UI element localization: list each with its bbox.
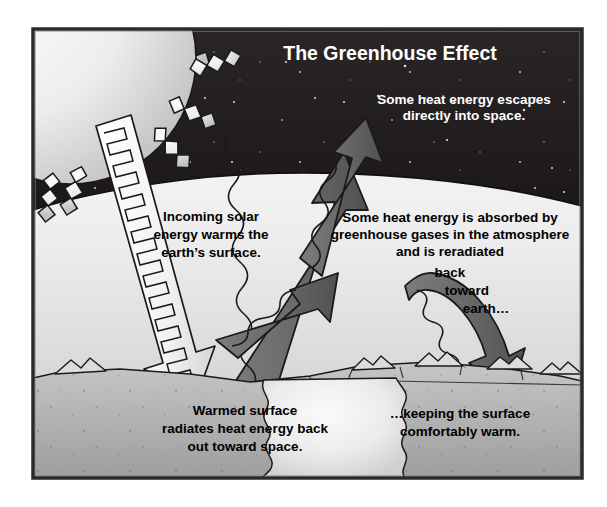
incoming-caption: Incoming solar energy warms the earth’s …	[154, 209, 269, 260]
absorbed-caption-line-2: greenhouse gases in the atmosphere	[331, 227, 570, 242]
absorbed-caption-line-6: earth…	[463, 301, 510, 316]
absorbed-caption-line-5: toward	[445, 283, 489, 298]
absorbed-caption-line-1: Some heat energy is absorbed by	[342, 210, 558, 225]
warmed-caption-line-2: radiates heat energy back	[162, 421, 328, 436]
incoming-caption-line-3: earth’s surface.	[161, 245, 260, 260]
absorbed-caption-line-3: and is reradiated	[396, 244, 504, 259]
incoming-caption-line-1: Incoming solar	[163, 209, 260, 224]
illustration-body: The Greenhouse Effect Some heat energy e…	[0, 0, 582, 480]
page-title: The Greenhouse Effect	[283, 42, 497, 64]
escape-caption: Some heat energy escapes directly into s…	[377, 92, 550, 123]
absorbed-caption-line-4: back	[435, 265, 466, 280]
escape-caption-line-2: directly into space.	[403, 108, 525, 123]
incoming-caption-line-2: energy warms the	[154, 227, 269, 242]
escape-caption-line-1: Some heat energy escapes	[377, 92, 550, 107]
warmed-caption-line-1: Warmed surface	[193, 403, 298, 418]
greenhouse-effect-figure: The Greenhouse Effect Some heat energy e…	[0, 0, 607, 507]
keeping-caption-line-1: …keeping the surface	[390, 406, 531, 421]
warmed-caption-line-3: out toward space.	[188, 439, 303, 454]
diagram-stage: The Greenhouse Effect Some heat energy e…	[0, 0, 607, 507]
keeping-caption-line-2: comfortably warm.	[400, 424, 520, 439]
